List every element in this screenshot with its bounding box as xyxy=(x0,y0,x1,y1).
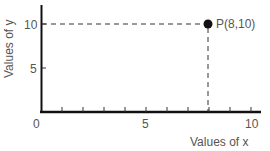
data-point-label: P(8,10) xyxy=(216,17,255,31)
y-axis-title: Values of y xyxy=(2,20,16,78)
x-tick-label-0: 0 xyxy=(33,117,40,131)
chart-canvas: 0 5 10 5 10 Values of x Values of y P(8,… xyxy=(0,0,270,151)
y-ticks xyxy=(42,24,46,68)
x-tick-label-5: 5 xyxy=(142,117,149,131)
y-tick-label-5: 5 xyxy=(30,62,37,76)
data-point-p xyxy=(204,20,213,29)
x-tick-label-10: 10 xyxy=(245,117,259,131)
y-tick-label-10: 10 xyxy=(24,18,38,32)
x-axis-title: Values of x xyxy=(190,135,248,149)
